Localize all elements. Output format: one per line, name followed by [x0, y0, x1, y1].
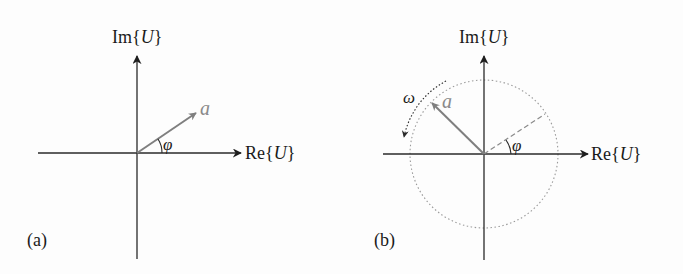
angle-label: φ	[512, 136, 521, 155]
real-axis-label: Re{U}	[591, 144, 641, 164]
rotation-label: ω	[403, 88, 415, 107]
panel-b: Im{U} Re{U} a ω φ (b)	[374, 27, 641, 260]
panel-caption: (b)	[374, 230, 395, 251]
phasor-diagram-figure: Im{U} Re{U} a φ (a) Im{U} Re{U} a ω φ	[0, 0, 683, 274]
phasor-vector	[432, 103, 484, 154]
real-axis-label: Re{U}	[245, 143, 295, 163]
imaginary-axis-label: Im{U}	[112, 27, 162, 47]
angle-arc	[158, 139, 162, 153]
vector-label: a	[442, 90, 452, 112]
panel-a: Im{U} Re{U} a φ (a)	[27, 27, 295, 259]
vector-label: a	[200, 97, 210, 119]
imaginary-axis-label: Im{U}	[459, 27, 509, 47]
panel-caption: (a)	[27, 230, 47, 251]
figure-canvas: Im{U} Re{U} a φ (a) Im{U} Re{U} a ω φ	[0, 0, 683, 274]
angle-arc	[506, 140, 511, 154]
angle-label: φ	[163, 135, 172, 154]
